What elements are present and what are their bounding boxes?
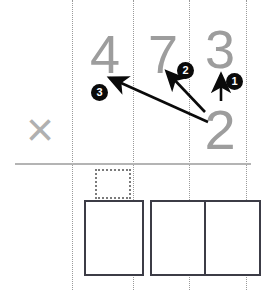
multiplier-digit-ones: 2 — [198, 102, 242, 158]
problem-rule — [15, 163, 251, 165]
step-badge-1: 1 — [226, 73, 243, 90]
multiplicand-digit-ones: 3 — [198, 22, 242, 76]
answer-box-tens[interactable] — [150, 200, 210, 276]
carry-input-box[interactable] — [95, 169, 131, 199]
multiplicand-digit-hundreds: 4 — [83, 27, 127, 81]
step-badge-2: 2 — [177, 62, 194, 79]
step-badge-3: 3 — [91, 84, 108, 101]
answer-box-ones[interactable] — [204, 200, 261, 276]
column-divider-1 — [72, 0, 73, 290]
multiplication-worksheet: 4 7 3 × 2 1 2 3 — [0, 0, 264, 290]
arrow-step-3 — [110, 78, 208, 122]
multiplication-operator: × — [18, 106, 62, 154]
answer-box-hundreds[interactable] — [84, 200, 144, 276]
